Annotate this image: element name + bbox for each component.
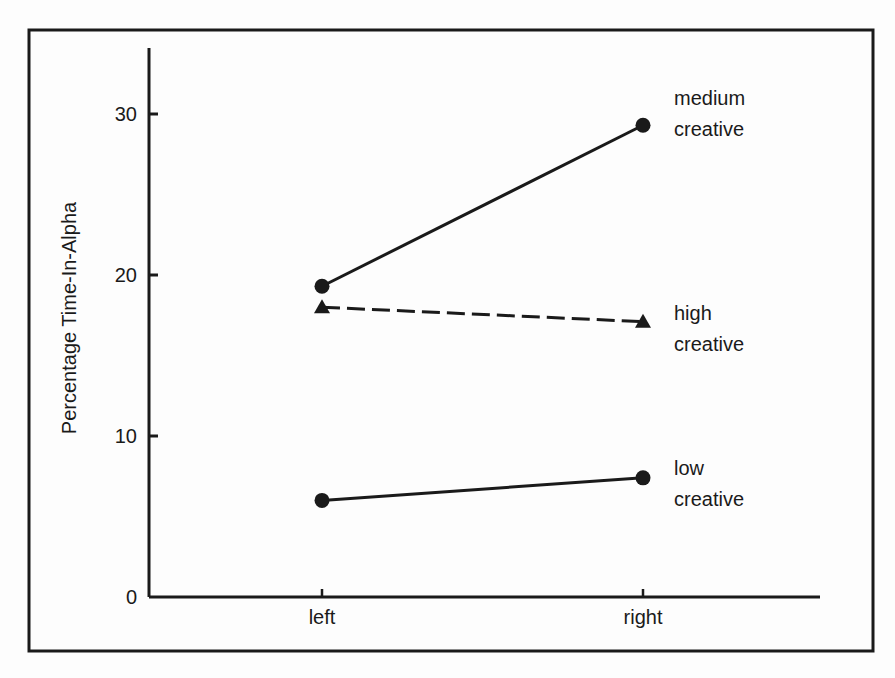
series-medium-creative: mediumcreative bbox=[315, 87, 746, 294]
y-tick-label: 0 bbox=[126, 586, 137, 608]
series-low-creative: lowcreative bbox=[315, 457, 745, 510]
circle-marker bbox=[315, 493, 330, 508]
series-high-creative: highcreative bbox=[314, 299, 744, 355]
series-label: medium bbox=[674, 87, 745, 109]
series-label: high bbox=[674, 302, 712, 324]
series-label: creative bbox=[674, 118, 744, 140]
x-tick-label: right bbox=[624, 606, 663, 628]
series-label: low bbox=[674, 457, 705, 479]
y-axis-label: Percentage Time-In-Alpha bbox=[58, 201, 80, 434]
series-line bbox=[322, 125, 643, 286]
y-tick-label: 30 bbox=[115, 103, 137, 125]
circle-marker bbox=[636, 470, 651, 485]
chart-frame bbox=[29, 30, 873, 651]
circle-marker bbox=[315, 279, 330, 294]
x-tick-label: left bbox=[309, 606, 336, 628]
y-tick-label: 20 bbox=[115, 264, 137, 286]
y-tick-label: 10 bbox=[115, 425, 137, 447]
series-layer: mediumcreativehighcreativelowcreative bbox=[314, 87, 745, 510]
series-label: creative bbox=[674, 333, 744, 355]
series-line bbox=[322, 307, 643, 321]
line-chart: 0102030leftright mediumcreativehighcreat… bbox=[0, 0, 895, 678]
circle-marker bbox=[636, 118, 651, 133]
series-label: creative bbox=[674, 488, 744, 510]
series-line bbox=[322, 478, 643, 501]
